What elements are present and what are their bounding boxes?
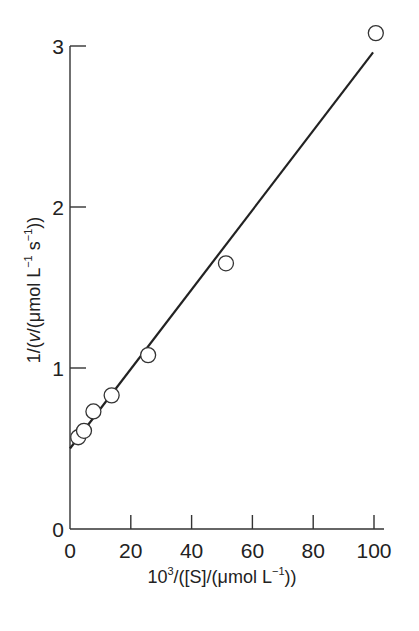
data-point: [218, 256, 233, 271]
x-tick-label: 80: [302, 539, 325, 562]
y-tick-label: 1: [52, 357, 64, 380]
y-tick-label: 3: [52, 35, 64, 58]
x-tick-label: 20: [119, 539, 142, 562]
data-point: [86, 404, 101, 419]
x-ticks: 020406080100: [64, 515, 391, 562]
y-tick-label: 2: [52, 196, 64, 219]
x-tick-label: 60: [241, 539, 264, 562]
y-ticks: 0123: [52, 35, 86, 541]
data-point: [104, 388, 119, 403]
x-tick-label: 0: [64, 539, 76, 562]
data-points: [71, 26, 384, 445]
axes: [70, 46, 384, 529]
x-tick-label: 40: [180, 539, 203, 562]
x-axis-label: 103/([S]/(μmol L−1)): [147, 565, 296, 587]
x-tick-label: 100: [356, 539, 391, 562]
data-point: [76, 423, 91, 438]
data-point: [368, 26, 383, 41]
data-point: [141, 348, 156, 363]
y-tick-label: 0: [52, 518, 64, 541]
lineweaver-burk-plot: 0123 020406080100 103/([S]/(μmol L−1)) 1…: [0, 0, 419, 631]
y-axis-label: 1/(v/(μmol L−1 s−1)): [22, 217, 44, 364]
